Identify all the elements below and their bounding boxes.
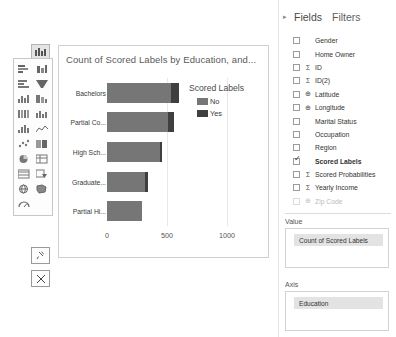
field-label: Occupation <box>315 131 349 138</box>
scatter-chart-icon[interactable] <box>15 136 33 151</box>
bar-row[interactable] <box>107 172 148 192</box>
field-checkbox[interactable] <box>293 144 300 151</box>
pin-icon-button[interactable] <box>31 247 50 264</box>
field-checkbox[interactable] <box>293 77 300 84</box>
bar-segment-yes[interactable] <box>168 112 174 132</box>
category-label: Partial Co... <box>70 119 106 126</box>
field-label: Region <box>315 144 337 151</box>
field-row[interactable]: ⊕Longitude <box>279 101 396 114</box>
tab-fields[interactable]: Fields <box>294 11 322 23</box>
ribbon-chart-icon[interactable] <box>15 106 33 121</box>
line-chart-icon[interactable] <box>33 121 51 136</box>
sum-icon: Σ <box>303 77 313 84</box>
bar-segment-no[interactable] <box>107 201 142 221</box>
fields-pane: ▸ Fields Filters GenderHome OwnerΣIDΣID(… <box>278 0 396 337</box>
bar-row[interactable] <box>107 83 179 103</box>
x-tick-label: 500 <box>161 231 173 240</box>
field-list[interactable]: GenderHome OwnerΣIDΣID(2)⊕Latitude⊕Longi… <box>279 34 396 208</box>
field-row[interactable]: ΣID <box>279 61 396 74</box>
map-icon[interactable] <box>15 181 33 196</box>
legend-label: No <box>210 97 219 106</box>
legend-title: Scored Labels <box>189 83 244 93</box>
field-row[interactable]: Gender <box>279 34 396 47</box>
pie-chart-icon[interactable] <box>15 151 33 166</box>
clustered-bar-chart-icon[interactable] <box>15 76 33 91</box>
pane-header: ▸ Fields Filters <box>279 11 396 23</box>
field-checkbox[interactable] <box>293 91 300 98</box>
field-label: Scored Probabilities <box>315 171 375 178</box>
axis-well[interactable]: Education <box>285 291 389 331</box>
bar-segment-no[interactable] <box>107 142 160 162</box>
column-chart-icon[interactable] <box>15 121 33 136</box>
field-checkbox[interactable] <box>293 131 300 138</box>
funnel-chart-icon[interactable] <box>33 76 51 91</box>
waterfall-chart-icon[interactable] <box>33 91 51 106</box>
chart-visual[interactable]: Count of Scored Labels by Education, and… <box>58 45 269 258</box>
category-label: Bachelors <box>76 89 106 96</box>
stacked-column-chart-icon[interactable] <box>33 61 51 76</box>
field-checkbox[interactable] <box>293 64 300 71</box>
field-row[interactable]: Marital Status <box>279 114 396 127</box>
field-checkbox[interactable] <box>293 198 300 205</box>
bar-row[interactable] <box>107 112 174 132</box>
field-checkbox[interactable] <box>293 118 300 125</box>
legend-item[interactable]: Yes <box>197 109 244 118</box>
stacked-area-chart-icon[interactable] <box>15 91 33 106</box>
legend-items[interactable]: NoYes <box>189 97 244 119</box>
bar-segment-yes[interactable] <box>160 142 162 162</box>
field-label: Marital Status <box>315 118 357 125</box>
field-row[interactable]: ΣScored Probabilities <box>279 168 396 181</box>
value-well[interactable]: Count of Scored Labels <box>285 228 389 268</box>
field-row[interactable]: Scored Labels <box>279 155 396 168</box>
field-checkbox[interactable] <box>293 184 300 191</box>
field-row[interactable]: Home Owner <box>279 47 396 60</box>
field-row[interactable]: ⊕Latitude <box>279 88 396 101</box>
axis-well-chip-label: Education <box>299 300 328 307</box>
field-label: ID(2) <box>315 77 330 84</box>
bar-segment-no[interactable] <box>107 83 171 103</box>
field-checkbox[interactable] <box>293 51 300 58</box>
filled-map-icon[interactable] <box>33 181 51 196</box>
x-tick-label: 1000 <box>219 231 235 240</box>
stacked-bar-chart-icon[interactable] <box>15 61 33 76</box>
field-row[interactable]: ⊕Zip Code <box>279 195 396 208</box>
axis-well-chip[interactable]: Education <box>294 297 383 309</box>
bar-segment-yes[interactable] <box>145 172 148 192</box>
close-icon-button[interactable] <box>31 270 50 287</box>
bar-segment-no[interactable] <box>107 112 168 132</box>
report-canvas: Count of Scored Labels by Education, and… <box>0 0 396 337</box>
field-row[interactable]: ΣYearly Income <box>279 181 396 194</box>
geo-icon: ⊕ <box>303 104 313 112</box>
value-well-chip[interactable]: Count of Scored Labels <box>294 234 383 246</box>
gauge-icon[interactable] <box>15 196 33 211</box>
well-label-axis: Axis <box>285 281 298 288</box>
slicer-icon[interactable] <box>33 166 51 181</box>
field-label: Home Owner <box>315 51 355 58</box>
field-checkbox[interactable] <box>293 171 300 178</box>
bar-row[interactable] <box>107 201 142 221</box>
field-label: Yearly Income <box>315 184 358 191</box>
bar-segment-no[interactable] <box>107 172 145 192</box>
field-checkbox[interactable] <box>293 37 300 44</box>
field-row[interactable]: Occupation <box>279 128 396 141</box>
x-tick-label: 0 <box>105 231 109 240</box>
field-row[interactable]: ΣID(2) <box>279 74 396 87</box>
field-checkbox[interactable] <box>293 158 300 165</box>
chevron-right-icon[interactable]: ▸ <box>283 13 287 21</box>
category-label: Partial Hi... <box>73 208 106 215</box>
visualizations-palette[interactable] <box>13 58 53 216</box>
bar-row[interactable] <box>107 142 162 162</box>
legend-item[interactable]: No <box>197 97 244 106</box>
line-and-column-chart-icon[interactable] <box>33 106 51 121</box>
table-icon[interactable] <box>33 151 51 166</box>
pane-divider <box>285 213 391 214</box>
bar-segment-yes[interactable] <box>171 83 179 103</box>
card-icon[interactable] <box>15 166 33 181</box>
field-row[interactable]: Region <box>279 141 396 154</box>
field-checkbox[interactable] <box>293 104 300 111</box>
clustered-column-chart-icon <box>34 47 47 57</box>
geo-icon: ⊕ <box>303 90 313 98</box>
tab-filters[interactable]: Filters <box>332 11 361 23</box>
field-label: Latitude <box>315 91 339 98</box>
matrix-icon[interactable] <box>33 136 51 151</box>
